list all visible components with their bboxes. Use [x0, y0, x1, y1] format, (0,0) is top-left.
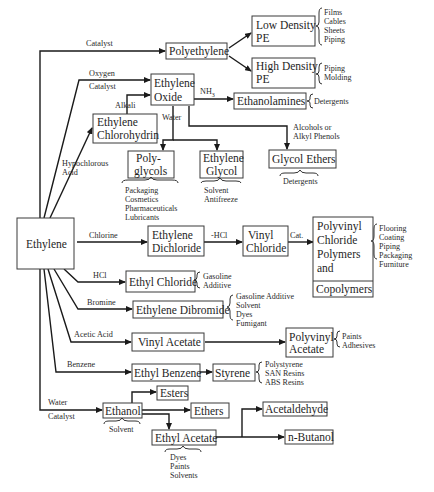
label-acetic-acid: Acetic Acid — [74, 330, 113, 339]
brace-glycol — [201, 178, 241, 183]
node-chlorohydrin-line2: Chlorohydrin — [97, 129, 159, 142]
brace-glycol-ethers — [280, 170, 318, 176]
label-alcohols-line2: Alkyl Phenols — [293, 132, 340, 141]
edge-ethanol-ethylacetate — [142, 414, 169, 429]
node-acetaldehyde: Acetaldehyde — [265, 403, 328, 416]
node-styrene: Styrene — [215, 367, 250, 380]
node-copolymers: Copolymers — [316, 283, 373, 296]
node-nbutanol: n-Butanol — [288, 431, 334, 443]
node-pvc-line3: Polymers — [317, 248, 361, 261]
node-ethyl-benzene: Ethyl Benzene — [134, 367, 201, 380]
use-edb-2: Dyes — [236, 310, 252, 319]
node-glycol-ethers: Glycol Ethers — [272, 153, 336, 166]
label-hcl: HCl — [93, 271, 107, 280]
use-edb-0: Gasoline Additive — [236, 292, 294, 301]
node-vinyl-acetate: Vinyl Acetate — [138, 336, 201, 349]
node-chlorohydrin-line1: Ethylene — [97, 116, 138, 129]
use-pvac-0: Paints — [342, 332, 362, 341]
label-benzene: Benzene — [67, 360, 96, 369]
brace-ethyl-acetate — [165, 446, 201, 452]
use-ethyl-acetate-2: Solvents — [170, 471, 198, 480]
use-pvac-1: Adhesives — [342, 341, 375, 350]
use-ldpe-0: Films — [324, 8, 342, 17]
brace-ldpe — [316, 8, 322, 45]
edge-ethylene-eb — [44, 269, 131, 372]
label-chlorine: Chlorine — [89, 231, 118, 240]
node-eo-line1: Ethylene — [154, 77, 195, 90]
label-water-eo: Water — [162, 113, 182, 122]
label-water-eth: Water — [48, 398, 68, 407]
label-minus-hcl: -HCl — [211, 231, 228, 240]
use-hdpe-1: Molding — [324, 73, 352, 82]
use-ethanolamines-0: Detergents — [314, 97, 349, 106]
node-eo-line2: Oxide — [154, 91, 182, 103]
node-pvc-line1: Polyvinyl — [317, 220, 362, 233]
use-polyglycols-1: Cosmetics — [125, 195, 158, 204]
label-catalyst-eth: Catalyst — [48, 412, 76, 421]
brace-edb — [227, 295, 233, 320]
use-ldpe-3: Piping — [324, 35, 345, 44]
use-ethanol-0: Solvent — [109, 425, 134, 434]
use-polyglycols-2: Pharmaceuticals — [125, 204, 177, 213]
label-cat: Cat. — [290, 231, 303, 240]
use-pvc-4: Furniture — [379, 260, 409, 269]
ethylene-flow-diagram: Ethylene Polyethylene Low Density PE Hig… — [0, 0, 434, 492]
use-ldpe-1: Cables — [324, 17, 346, 26]
node-ethyl-acetate: Ethyl Acetate — [155, 432, 217, 445]
label-oxygen: Oxygen — [89, 69, 115, 78]
node-ethylene: Ethylene — [26, 238, 67, 251]
node-glycol-line2: Glycol — [206, 165, 237, 178]
use-ethyl-chloride-1: Additive — [203, 281, 231, 290]
use-ethyl-acetate-1: Paints — [170, 462, 190, 471]
node-ethanol: Ethanol — [105, 405, 141, 417]
brace-ethanolamines — [307, 94, 313, 108]
node-hdpe-line2: PE — [256, 73, 269, 85]
label-catalyst-pe: Catalyst — [86, 39, 114, 48]
node-ethanolamines: Ethanolamines — [237, 95, 306, 107]
node-vc-line2: Chloride — [246, 242, 286, 254]
use-edb-1: Solvent — [236, 301, 261, 310]
label-hypochlorous-line1: Hypochlorous — [62, 159, 108, 168]
use-glycol-1: Antifreeze — [204, 195, 238, 204]
use-pvc-3: Packaging — [379, 251, 412, 260]
label-nh3: NH3 — [200, 87, 215, 98]
node-vc-line1: Vinyl — [248, 229, 274, 242]
node-polyglycols-line1: Poly- — [136, 152, 161, 165]
use-styrene-0: Polystyrene — [265, 360, 303, 369]
use-ldpe-2: Sheets — [324, 26, 345, 35]
use-pvc-0: Flooring — [379, 224, 407, 233]
use-styrene-2: ABS Resins — [265, 378, 304, 387]
node-esters: Esters — [160, 387, 189, 399]
edge-ethylene-ethanol — [40, 269, 102, 410]
node-edc-line1: Ethylene — [152, 229, 193, 242]
edge-ea-acetaldehyde — [242, 409, 262, 437]
node-pvc-line4: and — [317, 262, 334, 274]
node-ldpe-line1: Low Density — [256, 19, 316, 32]
node-pvc-line2: Chloride — [317, 234, 357, 246]
use-edb-3: Fumigant — [236, 319, 267, 328]
node-hdpe-line1: High Density — [256, 60, 318, 73]
node-ldpe-line2: PE — [256, 32, 269, 44]
use-ethyl-chloride-0: Gasoline — [203, 272, 232, 281]
edge-eo-glycolethers — [189, 106, 287, 149]
node-ethers: Ethers — [194, 405, 224, 417]
node-pvac-line2: Acetate — [289, 343, 324, 355]
edge-pe-hdpe — [229, 56, 251, 71]
use-pvc-1: Coating — [379, 233, 404, 242]
use-styrene-1: SAN Resins — [265, 369, 304, 378]
edge-pe-ldpe — [229, 33, 251, 48]
brace-ethanol — [104, 418, 140, 424]
node-polyethylene: Polyethylene — [169, 45, 229, 58]
label-hypochlorous-line2: Acid — [62, 168, 78, 177]
label-alcohols-line1: Alcohols or — [293, 123, 332, 132]
node-edb: Ethylene Dibromide — [136, 304, 230, 317]
use-ethyl-acetate-0: Dyes — [170, 453, 186, 462]
node-glycol-line1: Ethylene — [203, 152, 244, 165]
edge-eo-glycol — [173, 140, 217, 150]
use-polyglycols-0: Packaging — [125, 186, 158, 195]
use-pvc-2: Piping — [379, 242, 400, 251]
node-ethyl-chloride: Ethyl Chloride — [129, 276, 197, 289]
use-glycol-ethers-0: Detergents — [283, 177, 318, 186]
label-alkali: Alkali — [115, 101, 136, 110]
use-hdpe-0: Piping — [324, 64, 345, 73]
